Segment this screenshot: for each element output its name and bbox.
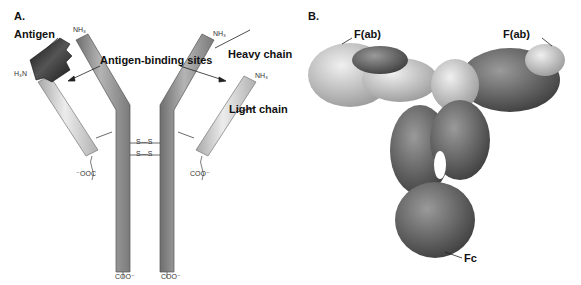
hinge-and-fc-region [390, 100, 490, 258]
light-chain-left [38, 76, 98, 156]
disulfide-label-1: S—S [136, 138, 152, 145]
coo-heavy-right: COO⁻ [161, 273, 181, 281]
fc-label: Fc [464, 252, 477, 264]
fab-right-region [431, 44, 565, 112]
antibody-3d-graphic [290, 0, 581, 285]
fab-left-region [308, 43, 438, 107]
nh3-heavy-left: NH₃ [73, 26, 86, 33]
nh3-heavy-right: NH₃ [213, 30, 226, 37]
fab-right-label: F(ab) [503, 28, 530, 40]
nh3-light-right: NH₃ [255, 72, 268, 79]
coo-heavy-left: COO⁻ [115, 273, 135, 281]
antigen-binding-sites-label: Antigen-binding sites [100, 54, 212, 66]
coo-light-right: COO⁻ [190, 170, 210, 178]
panel-b-3d-model: B. F(ab) F(ab) Fc [290, 0, 581, 285]
coo-light-left: ⁻OOC [76, 170, 96, 178]
light-chain-label: Light chain [229, 103, 288, 115]
fab-left-label: F(ab) [354, 28, 381, 40]
heavy-chain-label: Heavy chain [228, 48, 292, 60]
light-chain-right [196, 76, 256, 156]
antigen-label: Antigen [14, 28, 55, 40]
panel-a-schematic: A. Antigen Antigen-binding sites Heavy c… [0, 0, 290, 285]
panel-a-letter: A. [14, 10, 25, 22]
h3n-light-left: H₃N [14, 70, 27, 77]
disulfide-label-2: S—S [136, 150, 152, 157]
panel-b-letter: B. [308, 10, 319, 22]
